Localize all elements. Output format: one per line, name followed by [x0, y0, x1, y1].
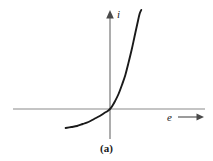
- horizontal-axis-label: e: [167, 112, 172, 123]
- horizontal-axis-direction-arrow: [178, 114, 204, 121]
- diode-characteristic-figure: i e (a): [0, 0, 213, 161]
- vertical-axis: [106, 10, 114, 139]
- direction-arrow-head-icon: [197, 114, 205, 121]
- figure-caption: (a): [0, 143, 213, 154]
- vertical-axis-label: i: [117, 9, 120, 20]
- figure-canvas: [0, 0, 213, 161]
- characteristic-curve: [66, 10, 142, 128]
- vertical-axis-arrowhead-icon: [106, 10, 114, 19]
